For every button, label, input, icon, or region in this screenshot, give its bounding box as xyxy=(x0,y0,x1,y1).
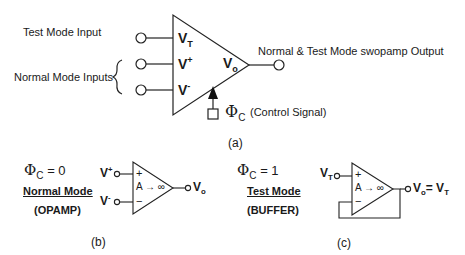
pin-vplus: V+ xyxy=(178,57,193,71)
b-gain-label: A → ∞ xyxy=(136,182,165,192)
output-terminal xyxy=(274,60,284,70)
output-label: Normal & Test Mode swopamp Output xyxy=(258,46,444,57)
phi-c-equals-1: ΦC = 1 xyxy=(237,162,279,178)
test-input-terminal xyxy=(136,33,146,43)
control-terminal xyxy=(208,109,218,119)
c-gain-label: A → ∞ xyxy=(355,183,384,193)
pin-vminus: V- xyxy=(178,83,190,97)
phi-c-equals-0: ΦC = 0 xyxy=(24,162,66,178)
b-output-vo: Vo xyxy=(193,181,206,193)
c-output-vo-equals-vt: Vo= VT xyxy=(413,182,449,194)
caption-c: (c) xyxy=(337,237,351,249)
control-signal-symbol: ΦC xyxy=(225,104,245,120)
c-plus-sign: + xyxy=(355,169,361,180)
control-signal-label: (Control Signal) xyxy=(250,107,326,118)
b-input-vplus: V+ xyxy=(100,167,113,179)
caption-b: (b) xyxy=(91,236,106,248)
opamp-type-label: (OPAMP) xyxy=(34,205,81,216)
normal-mode-title: Normal Mode xyxy=(23,186,93,197)
caption-a: (a) xyxy=(228,137,243,149)
buffer-type-label: (BUFFER) xyxy=(247,205,299,216)
c-minus-sign: − xyxy=(355,196,361,207)
pin-vt: VT xyxy=(178,31,193,45)
circuit-drawing xyxy=(0,0,465,255)
normal-mode-inputs-label: Normal Mode Inputs xyxy=(14,72,113,83)
b-minus-sign: − xyxy=(136,196,142,207)
c-input-vt: VT xyxy=(320,167,333,179)
vminus-input-terminal xyxy=(136,85,146,95)
b-plus-sign: + xyxy=(136,168,142,179)
pin-vo: Vo xyxy=(223,56,238,70)
brace-icon xyxy=(113,60,122,94)
b-input-vminus: V- xyxy=(100,195,111,207)
test-mode-title: Test Mode xyxy=(247,186,301,197)
vplus-input-terminal xyxy=(136,59,146,69)
test-mode-input-label: Test Mode Input xyxy=(23,27,101,38)
